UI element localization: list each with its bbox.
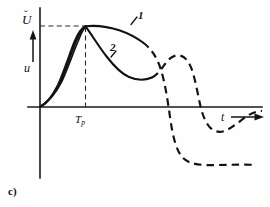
curve-rise-edge-c xyxy=(41,26,87,106)
curve-2-label: 2 xyxy=(110,42,116,53)
curve-2-dashed-continuation xyxy=(152,55,262,132)
peak-accent-mark: ˇ xyxy=(24,9,28,20)
y-axis-label: u xyxy=(24,62,30,74)
curve-1-label: 1 xyxy=(138,10,144,21)
u-axis-arrow xyxy=(30,30,37,62)
figure-container: ˇU u Tр t 1 2 c) xyxy=(0,0,270,207)
curve-1-leader-tick xyxy=(131,17,137,25)
y-axis-peak-label: ˇU xyxy=(22,13,31,26)
time-to-peak-label: Tр xyxy=(75,114,85,127)
x-axis-label: t xyxy=(221,112,224,124)
figure-caption: c) xyxy=(8,186,17,197)
t-axis-arrow xyxy=(231,113,264,120)
tp-subscript: р xyxy=(81,118,85,127)
curve-2-solid-segment xyxy=(86,26,153,79)
plot-canvas xyxy=(0,0,270,207)
